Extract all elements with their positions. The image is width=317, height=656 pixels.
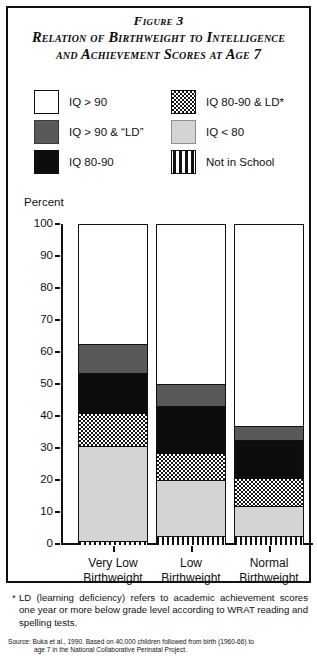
y-tick-label: 90: [16, 250, 60, 262]
legend-label: IQ 80-90 & LD*: [206, 96, 284, 108]
y-tick-label-wrap: 70: [16, 314, 60, 326]
legend-label: Not in School: [206, 156, 274, 168]
y-axis-line: [61, 224, 63, 544]
y-tick-label-wrap: 10: [16, 506, 60, 518]
bar-segment: [157, 481, 225, 537]
bar-segment: [157, 225, 225, 385]
stacked-bar: [78, 224, 148, 544]
stacked-bar: [156, 224, 226, 544]
plot-area: 1009080706050403020100: [16, 218, 301, 558]
bar-segment: [157, 385, 225, 407]
footnote: * LD (learning deficiency) refers to aca…: [12, 592, 308, 629]
x-axis-label: NormalBirthweight: [217, 556, 317, 586]
legend-item: IQ > 90: [34, 90, 107, 114]
legend-item: Not in School: [171, 150, 274, 174]
y-tick-label-wrap: 90: [16, 250, 60, 262]
frame-border-right: [309, 6, 311, 583]
x-tick-mark: [191, 546, 193, 552]
figure-page: Figure 3 Relation of Birthweight to Inte…: [0, 0, 317, 656]
figure-title-line-2: and Achievement Scores at Age 7: [8, 46, 309, 63]
y-tick-label: 100: [16, 218, 60, 230]
legend-swatch-stripe-icon: [171, 150, 196, 174]
x-tick-mark: [269, 546, 271, 552]
y-tick-label-wrap: 40: [16, 410, 60, 422]
y-tick-label: 10: [16, 506, 60, 518]
bar-segment: [235, 225, 303, 427]
source-line-2: age 7 in the National Collaborative Peri…: [8, 646, 311, 654]
figure-title-line-1: Relation of Birthweight to Intelligence: [8, 29, 309, 46]
y-tick-label: 80: [16, 282, 60, 294]
legend-item: IQ 80-90: [34, 150, 114, 174]
x-axis-label-line-1: Normal: [250, 556, 289, 570]
legend-swatch-white-icon: [34, 90, 59, 114]
legend-label: IQ > 90 & “LD”: [69, 126, 143, 138]
bar-segment: [235, 507, 303, 537]
y-axis-title: Percent: [24, 196, 64, 208]
bar-segment: [79, 374, 147, 414]
y-tick-label: 20: [16, 474, 60, 486]
legend-swatch-check-icon: [171, 90, 196, 114]
bar-segment: [235, 441, 303, 479]
footnote-marker: *: [12, 592, 16, 604]
y-tick-label-wrap: 20: [16, 474, 60, 486]
figure-number: Figure 3: [8, 13, 309, 29]
legend-item: IQ < 80: [171, 120, 244, 144]
y-tick-label: 0: [16, 538, 60, 550]
bar-segment: [79, 447, 147, 541]
stacked-bar: [234, 224, 304, 544]
legend-item: IQ 80-90 & LD*: [171, 90, 284, 114]
bar-segment: [235, 537, 303, 545]
source-note: Source: Buka et al., 1990. Based on 40,0…: [8, 638, 311, 655]
y-tick-label-wrap: 60: [16, 346, 60, 358]
source-line-1: Source: Buka et al., 1990. Based on 40,0…: [8, 638, 311, 646]
x-axis-labels: Very LowBirthweightLowBirthweightNormalB…: [16, 556, 301, 590]
y-tick-label: 60: [16, 346, 60, 358]
bar-segment: [79, 542, 147, 545]
x-axis-label-line-2: Birthweight: [217, 571, 317, 586]
legend-label: IQ < 80: [206, 126, 244, 138]
bar-segment: [157, 537, 225, 545]
bar-segment: [235, 427, 303, 441]
bar-segment: [79, 414, 147, 448]
y-tick-label-wrap: 100: [16, 218, 60, 230]
bar-segment: [235, 479, 303, 506]
footnote-text: LD (learning deficiency) refers to acade…: [12, 592, 308, 629]
y-tick-label: 40: [16, 410, 60, 422]
x-axis-label-line-1: Low: [180, 556, 202, 570]
y-tick-label: 50: [16, 378, 60, 390]
figure-title: Figure 3 Relation of Birthweight to Inte…: [8, 13, 309, 63]
y-tick-label-wrap: 50: [16, 378, 60, 390]
bar-segment: [157, 407, 225, 453]
y-tick-label-wrap: 30: [16, 442, 60, 454]
legend-swatch-darkgray-icon: [34, 120, 59, 144]
legend-swatch-black-icon: [34, 150, 59, 174]
bar-segment: [79, 345, 147, 374]
y-tick-label-wrap: 0: [16, 538, 60, 550]
legend-label: IQ 80-90: [69, 156, 114, 168]
frame-border-top: [6, 6, 311, 8]
legend-item: IQ > 90 & “LD”: [34, 120, 143, 144]
chart-legend: IQ > 90IQ > 90 & “LD”IQ 80-90IQ 80-90 & …: [8, 88, 309, 180]
y-tick-label: 70: [16, 314, 60, 326]
x-axis-label-line-1: Very Low: [88, 556, 137, 570]
bar-segment: [157, 454, 225, 481]
legend-swatch-lightgray-icon: [171, 120, 196, 144]
x-tick-mark: [113, 546, 115, 552]
y-tick-label-wrap: 80: [16, 282, 60, 294]
legend-label: IQ > 90: [69, 96, 107, 108]
bar-segment: [79, 225, 147, 345]
y-tick-label: 30: [16, 442, 60, 454]
